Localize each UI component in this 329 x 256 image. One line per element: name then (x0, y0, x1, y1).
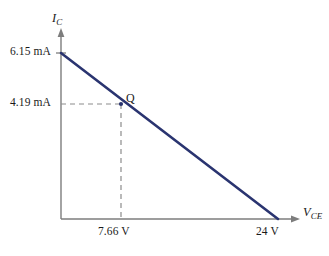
y-axis (58, 28, 65, 219)
x-axis-arrowhead (291, 216, 300, 223)
x-axis-title: VCE (303, 206, 323, 221)
dc-load-line (61, 53, 278, 219)
y-tick-label-saturation: 6.15 mA (10, 46, 51, 58)
y-tick-label-quiescent: 4.19 mA (10, 97, 51, 109)
x-axis-title-subscript: CE (311, 211, 323, 221)
x-tick-label-quiescent: 7.66 V (98, 226, 130, 238)
plot-canvas (0, 0, 329, 256)
x-axis (61, 216, 300, 223)
y-axis-arrowhead (58, 28, 65, 37)
x-tick-label-cutoff: 24 V (256, 226, 279, 238)
load-line-figure: IC VCE 6.15 mA 4.19 mA 7.66 V 24 V Q (0, 0, 329, 256)
x-axis-title-symbol: V (303, 205, 311, 219)
q-point-label: Q (126, 92, 135, 104)
y-axis-title: IC (52, 12, 62, 27)
y-axis-title-subscript: C (56, 17, 62, 27)
q-point-marker (119, 102, 123, 106)
